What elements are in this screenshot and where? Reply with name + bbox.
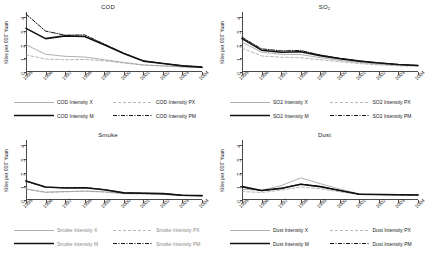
x-tick-labels-cod: 1995199619971998199920002001200220032004 <box>26 74 202 94</box>
legend-label: COD Intensity PX <box>156 99 195 105</box>
legend-swatch <box>230 112 270 119</box>
y-tick-mark <box>240 45 243 46</box>
y-tick-mark <box>240 17 243 18</box>
plot-area-smoke: 01234 <box>26 140 202 200</box>
legend-item[interactable]: COD Intensity M <box>14 112 109 119</box>
legend-swatch <box>330 99 370 106</box>
panel-so2: SO2 Kilos per 000' Yuan 01234 1995199619… <box>216 0 433 128</box>
legend-label: Smoke Intensity M <box>57 241 98 247</box>
legend-label: COD Intensity PM <box>156 113 196 119</box>
series-line <box>242 184 418 195</box>
x-tick-labels-dust: 1995199619971998199920002001200220032004 <box>242 202 418 222</box>
legend-swatch <box>14 112 54 119</box>
panel-dust: Dust Kilos per 000' Yuan 01234 199519961… <box>216 128 433 256</box>
legend-swatch <box>330 112 370 119</box>
y-axis-label-dust: Kilos per 000' Yuan <box>217 140 226 202</box>
legend-item[interactable]: Smoke Intensity M <box>14 240 109 247</box>
legend-item[interactable]: Smoke Intensity X <box>14 227 109 234</box>
legend-item[interactable]: COD Intensity PX <box>113 99 208 106</box>
legend-label: Smoke Intensity X <box>57 227 97 233</box>
legend-item[interactable]: Dust Intensity X <box>230 227 326 234</box>
x-tick-labels-smoke: 1995199619971998199920002001200220032004 <box>26 202 202 222</box>
legend-item[interactable]: Dust Intensity M <box>230 240 326 247</box>
legend-item[interactable]: SO2 Intensity PM <box>330 112 426 119</box>
panel-title-so2: SO2 <box>216 4 433 10</box>
y-ticks-so2: 01234 <box>232 12 241 72</box>
y-tick-mark <box>24 45 27 46</box>
series-line <box>242 178 418 195</box>
y-tick-mark <box>24 145 27 146</box>
legend-label: COD Intensity X <box>57 99 93 105</box>
legend-label: Dust Intensity X <box>273 227 308 233</box>
y-tick-mark <box>24 31 27 32</box>
x-tick-labels-so2: 1995199619971998199920002001200220032004 <box>242 74 418 94</box>
legend-item[interactable]: SO2 Intensity M <box>230 112 326 119</box>
legend-swatch <box>113 240 153 247</box>
legend-label: SO2 Intensity M <box>273 113 309 119</box>
legend-label: Dust Intensity PX <box>373 227 411 233</box>
y-ticks-dust: 01234 <box>232 140 241 200</box>
legend-swatch <box>14 99 54 106</box>
y-tick-mark <box>240 159 243 160</box>
series-lines-smoke <box>26 140 202 200</box>
panel-cod: COD Kilos per 000' Yuan 01234 1995199619… <box>0 0 216 128</box>
panel-title-smoke: Smoke <box>0 132 216 138</box>
panel-smoke: Smoke Kilos per 000' Yuan 01234 19951996… <box>0 128 216 256</box>
legend-label: COD Intensity M <box>57 113 94 119</box>
chart-grid: COD Kilos per 000' Yuan 01234 1995199619… <box>0 0 433 256</box>
y-axis-label-smoke: Kilos per 000' Yuan <box>1 140 10 202</box>
y-axis-label-cod: Kilos per 000' Yuan <box>1 12 10 74</box>
legend-cod: COD Intensity XCOD Intensity PXCOD Inten… <box>14 96 208 122</box>
y-tick-mark <box>240 31 243 32</box>
legend-item[interactable]: SO2 Intensity X <box>230 99 326 106</box>
panel-title-dust: Dust <box>216 132 433 138</box>
legend-label: SO2 Intensity X <box>273 99 308 105</box>
y-tick-mark <box>240 173 243 174</box>
y-tick-mark <box>24 17 27 18</box>
y-ticks-smoke: 01234 <box>16 140 25 200</box>
legend-label: Dust Intensity PM <box>373 241 412 247</box>
legend-swatch <box>230 240 270 247</box>
legend-swatch <box>14 227 54 234</box>
legend-item[interactable]: SO2 Intensity PX <box>330 99 426 106</box>
legend-so2: SO2 Intensity XSO2 Intensity PXSO2 Inten… <box>230 96 425 122</box>
legend-item[interactable]: Dust Intensity PX <box>330 227 426 234</box>
legend-swatch <box>14 240 54 247</box>
plot-area-cod: 01234 <box>26 12 202 72</box>
legend-label: Smoke Intensity PX <box>156 227 200 233</box>
series-line <box>26 181 202 195</box>
legend-label: Smoke Intensity PM <box>156 241 200 247</box>
legend-item[interactable]: Smoke Intensity PM <box>113 240 208 247</box>
legend-item[interactable]: Dust Intensity PM <box>330 240 426 247</box>
plot-area-dust: 01234 <box>242 140 418 200</box>
legend-swatch <box>330 227 370 234</box>
y-tick-mark <box>24 58 27 59</box>
legend-swatch <box>230 99 270 106</box>
legend-label: SO2 Intensity PX <box>373 99 411 105</box>
legend-swatch <box>113 227 153 234</box>
legend-item[interactable]: COD Intensity X <box>14 99 109 106</box>
legend-swatch <box>113 112 153 119</box>
legend-item[interactable]: Smoke Intensity PX <box>113 227 208 234</box>
series-line <box>242 42 418 66</box>
series-line <box>242 39 418 66</box>
legend-swatch <box>230 227 270 234</box>
legend-label: SO2 Intensity PM <box>373 113 412 119</box>
series-lines-dust <box>242 140 418 200</box>
plot-area-so2: 01234 <box>242 12 418 72</box>
y-tick-mark <box>24 173 27 174</box>
legend-smoke: Smoke Intensity XSmoke Intensity PXSmoke… <box>14 224 208 250</box>
y-tick-mark <box>240 186 243 187</box>
legend-item[interactable]: COD Intensity PM <box>113 112 208 119</box>
y-tick-mark <box>24 186 27 187</box>
y-tick-mark <box>24 159 27 160</box>
series-lines-so2 <box>242 12 418 72</box>
legend-swatch <box>330 240 370 247</box>
y-tick-mark <box>240 58 243 59</box>
legend-swatch <box>113 99 153 106</box>
y-axis-label-so2: Kilos per 000' Yuan <box>217 12 226 74</box>
legend-label: Dust Intensity M <box>273 241 309 247</box>
series-line <box>26 181 202 196</box>
legend-dust: Dust Intensity XDust Intensity PXDust In… <box>230 224 425 250</box>
y-tick-mark <box>240 145 243 146</box>
